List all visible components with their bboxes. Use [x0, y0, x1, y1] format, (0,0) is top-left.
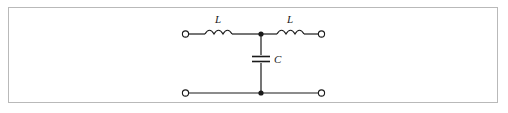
- junction-bottom-center-dot: [258, 90, 263, 95]
- capacitor-label: C: [274, 53, 282, 65]
- junction-top-center-dot: [258, 31, 263, 36]
- inductor-left-icon: [205, 30, 232, 34]
- terminal-bottom-left-icon[interactable]: [182, 90, 188, 96]
- inductor-left-label: L: [214, 13, 221, 25]
- circuit-schematic: L L C: [0, 0, 508, 113]
- circuit-figure: L L C: [0, 0, 508, 113]
- terminal-bottom-right-icon[interactable]: [318, 90, 324, 96]
- inductor-right-icon: [277, 30, 304, 34]
- terminal-top-right-icon[interactable]: [318, 31, 324, 37]
- inductor-right-label: L: [286, 13, 293, 25]
- terminal-top-left-icon[interactable]: [182, 31, 188, 37]
